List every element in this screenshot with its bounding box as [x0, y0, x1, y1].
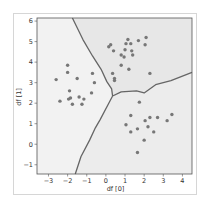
data-point-cluster-top: [124, 42, 127, 45]
y-tick-label: −1: [23, 161, 33, 169]
data-point-cluster-bottom: [152, 130, 155, 133]
data-point-cluster-bottom: [136, 127, 139, 130]
data-point-cluster-top: [109, 43, 112, 46]
data-point-cluster-top: [144, 36, 147, 39]
data-point-cluster-top: [127, 68, 130, 71]
data-point-cluster-bottom: [142, 138, 145, 141]
data-point-cluster-bottom: [165, 119, 168, 122]
y-tick-label: 6: [29, 17, 33, 25]
data-point-cluster-left: [91, 72, 94, 75]
data-point-cluster-top: [111, 72, 114, 75]
data-point-cluster-left: [71, 103, 74, 106]
data-point-cluster-top: [126, 38, 129, 41]
data-point-cluster-left: [90, 91, 93, 94]
x-axis-label: df [0]: [107, 185, 125, 193]
data-point-cluster-left: [66, 71, 69, 74]
data-point-cluster-top: [130, 49, 133, 52]
y-tick-label: 2: [29, 99, 33, 107]
scatter-chart: −3−2−101234−10123456df [0]df [1]: [0, 0, 209, 210]
x-tick-label: 4: [180, 177, 184, 185]
data-point-cluster-bottom: [170, 113, 173, 116]
x-tick-label: −2: [63, 177, 73, 185]
data-point-cluster-left: [69, 96, 72, 99]
data-point-cluster-top: [143, 43, 146, 46]
y-tick-label: 1: [29, 120, 33, 128]
x-tick-label: 1: [123, 177, 127, 185]
data-point-cluster-bottom: [129, 114, 132, 117]
data-point-cluster-bottom: [148, 116, 151, 119]
data-point-cluster-bottom: [156, 116, 159, 119]
data-point-cluster-bottom: [146, 125, 149, 128]
data-point-cluster-top: [112, 49, 115, 52]
x-tick-label: 2: [142, 177, 146, 185]
y-tick-label: 5: [29, 38, 33, 46]
data-point-cluster-bottom: [143, 119, 146, 122]
x-tick-label: −3: [44, 177, 54, 185]
data-point-cluster-top: [119, 53, 122, 56]
data-point-cluster-top: [123, 48, 126, 51]
data-point-cluster-top: [119, 64, 122, 67]
y-tick-label: 0: [29, 141, 33, 149]
data-point-cluster-top: [137, 39, 140, 42]
data-point-cluster-left: [54, 78, 57, 81]
data-point-cluster-left: [77, 95, 80, 98]
data-point-cluster-left: [68, 89, 71, 92]
x-tick-label: −1: [82, 177, 92, 185]
data-point-cluster-top: [148, 72, 151, 75]
data-point-cluster-top: [131, 53, 134, 56]
data-point-cluster-bottom: [136, 151, 139, 154]
data-point-cluster-left: [75, 77, 78, 80]
data-point-cluster-left: [82, 97, 85, 100]
y-tick-label: 4: [29, 58, 33, 66]
data-point-cluster-left: [58, 99, 61, 102]
y-tick-label: 3: [29, 79, 33, 87]
data-point-cluster-bottom: [124, 123, 127, 126]
y-axis-label: df [1]: [15, 88, 23, 106]
data-point-cluster-top: [129, 42, 132, 45]
data-point-cluster-left: [93, 81, 96, 84]
data-point-cluster-left: [80, 103, 83, 106]
data-point-cluster-bottom: [129, 130, 132, 133]
data-point-cluster-bottom: [138, 100, 141, 103]
x-tick-label: 0: [104, 177, 108, 185]
data-point-cluster-top: [122, 55, 125, 58]
x-tick-label: 3: [161, 177, 165, 185]
data-point-cluster-left: [66, 64, 69, 67]
data-point-cluster-top: [113, 79, 116, 82]
